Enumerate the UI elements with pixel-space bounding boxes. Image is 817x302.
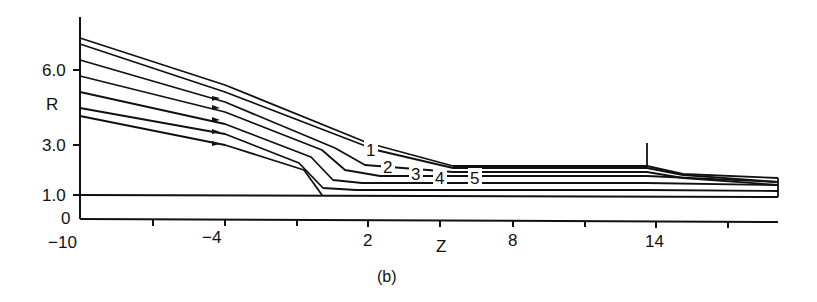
x-axis-label: Z [436, 237, 446, 256]
flow-arrows [212, 96, 220, 146]
y-tick-3: 3.0 [42, 136, 66, 155]
figure-caption: (b) [377, 268, 397, 285]
streamline-2 [80, 76, 778, 182]
y-tick-labels: 6.0 R 3.0 1.0 0 [42, 61, 70, 228]
x-tick-m10: −10 [48, 233, 77, 252]
x-axis [80, 219, 778, 222]
outer-boundary [80, 38, 778, 178]
contour-label-1: 1 [366, 141, 375, 160]
contour-label-5: 5 [470, 169, 479, 188]
streamline-0 [80, 44, 778, 182]
x-tick-14: 14 [645, 232, 664, 251]
y-tick-6: 6.0 [42, 61, 66, 80]
y-tick-1: 1.0 [42, 186, 66, 205]
inner-wall [80, 195, 778, 197]
contour-label-3: 3 [411, 165, 420, 184]
contour-label-4: 4 [435, 169, 444, 188]
x-tick-m4: −4 [202, 228, 221, 247]
y-axis-label: R [46, 95, 58, 114]
x-tick-2: 2 [363, 231, 372, 250]
streamline-4 [80, 108, 778, 191]
x-tick-labels: −10 −4 2 Z 8 14 [48, 228, 664, 256]
x-tick-8: 8 [508, 231, 517, 250]
y-tick-0: 0 [61, 209, 70, 228]
streamlines [80, 38, 778, 197]
streamline-chart: 1 2 3 4 5 6.0 R 3.0 1.0 0 −10 −4 2 Z 8 1… [0, 0, 817, 302]
contour-label-2: 2 [383, 158, 392, 177]
